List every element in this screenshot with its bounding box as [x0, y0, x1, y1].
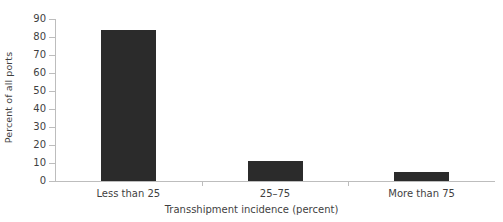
x-category-label: 25–75	[195, 188, 355, 200]
bar	[248, 161, 303, 181]
x-category-label: More than 75	[342, 188, 502, 200]
x-axis-line	[55, 181, 495, 182]
x-axis-title: Transshipment incidence (percent)	[0, 204, 503, 216]
bar-chart: Percent of all ports 0102030405060708090…	[0, 0, 503, 222]
y-tick-mark	[49, 181, 55, 182]
bar	[101, 30, 156, 181]
x-category-label: Less than 25	[48, 188, 208, 200]
x-tick-mark	[348, 182, 349, 186]
bar	[394, 172, 449, 181]
x-tick-mark	[202, 182, 203, 186]
bars-layer	[0, 0, 503, 181]
